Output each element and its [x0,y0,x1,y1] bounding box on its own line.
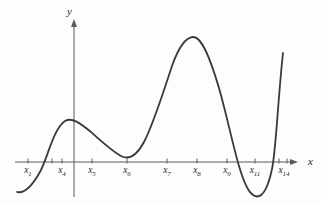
x-axis-label: x [307,155,313,167]
tick-label: x7 [162,165,171,178]
axes-layer: x1x4x5x6x7x8x9x11x14 [15,19,298,197]
tick-label: x6 [122,165,131,178]
plot-svg: x1x4x5x6x7x8x9x11x14 x y [0,0,321,203]
function-graph-figure: x1x4x5x6x7x8x9x11x14 x y [0,0,321,203]
tick-label: x9 [222,165,231,178]
tick-label: x8 [192,165,201,178]
tick-label: x11 [249,165,261,178]
tick-label: x1 [23,165,32,178]
tick-label: x4 [57,165,66,178]
curve-layer [17,37,283,197]
x-axis-arrow-icon [290,159,298,165]
y-axis-label: y [66,5,72,17]
tick-label: x5 [87,165,96,178]
y-axis-arrow-icon [71,19,77,27]
tick-label: x14 [277,165,290,178]
function-curve-path [17,37,283,197]
